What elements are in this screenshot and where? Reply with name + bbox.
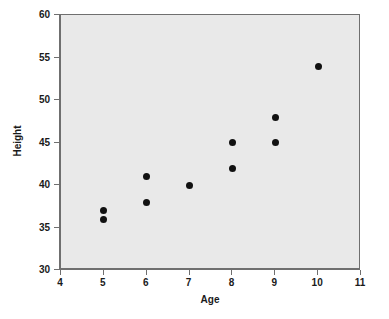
x-axis-label: Age <box>60 294 360 305</box>
x-axis-tick <box>231 270 232 275</box>
y-axis-tick-label: 40 <box>39 179 50 190</box>
data-point <box>229 139 236 146</box>
data-points-layer <box>61 15 359 268</box>
x-axis-tick <box>360 270 361 275</box>
y-axis-tick-label: 60 <box>39 9 50 20</box>
y-axis-tick-label: 30 <box>39 264 50 275</box>
data-point <box>229 165 236 172</box>
x-axis-tick <box>60 270 61 275</box>
x-axis-tick-label: 7 <box>186 277 192 288</box>
x-axis-tick <box>317 270 318 275</box>
y-axis-tick-label: 35 <box>39 221 50 232</box>
x-axis-tick-label: 9 <box>272 277 278 288</box>
x-axis-tick-label: 8 <box>229 277 235 288</box>
y-axis-tick <box>54 14 59 15</box>
y-axis-line <box>59 14 60 270</box>
x-axis-tick <box>274 270 275 275</box>
data-point <box>100 216 107 223</box>
x-axis-tick-label: 11 <box>355 277 366 288</box>
x-axis-tick <box>146 270 147 275</box>
x-axis-tick-label: 5 <box>100 277 106 288</box>
data-point <box>272 114 279 121</box>
data-point <box>186 182 193 189</box>
x-axis-tick-label: 4 <box>57 277 63 288</box>
data-point <box>315 63 322 70</box>
y-axis-tick <box>54 184 59 185</box>
data-point <box>272 139 279 146</box>
y-axis-tick <box>54 99 59 100</box>
plot-area <box>60 14 360 269</box>
data-point <box>143 173 150 180</box>
y-axis-tick-label: 45 <box>39 136 50 147</box>
y-axis-tick <box>54 142 59 143</box>
data-point <box>143 199 150 206</box>
y-axis-tick-label: 55 <box>39 51 50 62</box>
y-axis-label: Height <box>12 125 23 156</box>
y-axis-tick <box>54 269 59 270</box>
y-axis-tick <box>54 57 59 58</box>
data-point <box>100 207 107 214</box>
x-axis-tick <box>103 270 104 275</box>
y-axis-tick <box>54 227 59 228</box>
scatter-chart-figure: 4567891011 30354045505560 Age Height <box>0 0 389 319</box>
x-axis-line <box>59 269 360 270</box>
x-axis-tick-label: 10 <box>312 277 323 288</box>
y-axis-tick-label: 50 <box>39 94 50 105</box>
x-axis-tick-label: 6 <box>143 277 149 288</box>
x-axis-tick <box>189 270 190 275</box>
